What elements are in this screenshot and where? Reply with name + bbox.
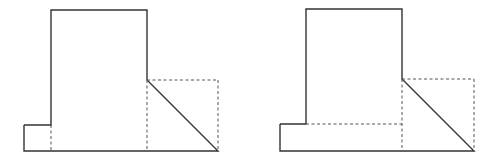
figure-left-outline <box>24 10 218 151</box>
figure-right <box>280 9 474 151</box>
figure-right-outline <box>280 9 474 151</box>
diagram-canvas <box>0 0 498 159</box>
figure-left <box>24 10 218 151</box>
